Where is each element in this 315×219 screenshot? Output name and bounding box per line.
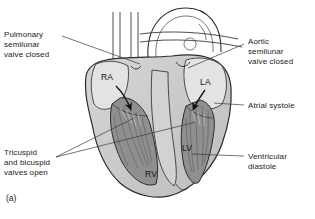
figure-caption: (a) [6,193,16,203]
leader-pulmonary [62,36,140,64]
chamber-label-left-atrium: LA [200,77,211,87]
chamber-label-right-ventricle: RV [145,169,157,179]
callout-aortic-valve: Aortic semilunar valve closed [248,37,293,68]
callout-pulmonary-valve: Pulmonary semilunar valve closed [4,30,49,61]
arch-branch-right [199,24,206,40]
callout-atrial-systole: Atrial systole [248,101,295,111]
horizontal-vessel-top2 [140,40,242,47]
chamber-label-left-ventricle: LV [182,143,192,153]
callout-ventricular-diastole: Ventricular diastole [248,152,287,172]
callout-av-valves: Tricuspid and bicuspid valves open [4,148,50,179]
aortic-arch-inner [156,16,213,58]
chamber-label-right-atrium: RA [101,72,113,82]
